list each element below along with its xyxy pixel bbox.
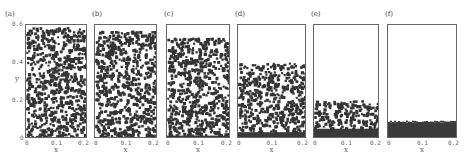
x-tick-label: 0.2	[221, 139, 232, 146]
x-tick-label: 0.2	[370, 139, 381, 146]
particle-scatter	[167, 25, 230, 138]
x-tick-label: 0	[313, 139, 317, 146]
panel-label: (a)	[5, 10, 15, 18]
panel-label: (f)	[385, 10, 393, 18]
y-tick-label: 0.2	[12, 96, 23, 103]
x-axis-label: x	[344, 146, 348, 154]
particle-scatter	[314, 25, 379, 138]
x-tick-label: 0	[387, 139, 391, 146]
particle-scatter	[388, 25, 457, 138]
x-axis-label: x	[270, 146, 274, 154]
x-tick-label: 0.2	[78, 139, 89, 146]
x-axis-label: x	[196, 146, 200, 154]
x-axis-label: x	[54, 146, 58, 154]
x-tick-label: 0.2	[148, 139, 159, 146]
x-tick-label: 0.1	[193, 139, 204, 146]
x-tick-label: 0	[25, 139, 29, 146]
panel-label: (c)	[164, 10, 173, 18]
x-axis-label: x	[124, 146, 128, 154]
particle-scatter	[26, 25, 87, 138]
x-tick-label: 0	[237, 139, 241, 146]
x-tick-label: 0.1	[341, 139, 352, 146]
panel-label: (d)	[235, 10, 245, 18]
particle-scatter	[238, 25, 306, 138]
x-tick-label: 0.2	[448, 139, 459, 146]
y-tick-label: 0	[20, 134, 24, 141]
plot-panel	[237, 24, 306, 138]
x-tick-label: 0.1	[267, 139, 278, 146]
y-tick-label: 0.6	[12, 20, 23, 27]
particle-scatter	[95, 25, 157, 138]
x-tick-label: 0	[94, 139, 98, 146]
plot-panel	[166, 24, 230, 138]
panel-label: (e)	[311, 10, 321, 18]
x-tick-label: 0.1	[417, 139, 428, 146]
y-axis-label: y	[15, 75, 19, 83]
plot-panel	[25, 24, 87, 138]
y-tick-label: 0.4	[12, 58, 23, 65]
x-tick-label: 0	[166, 139, 170, 146]
x-tick-label: 0.1	[121, 139, 132, 146]
plot-panel	[387, 24, 457, 138]
x-tick-label: 0.1	[51, 139, 62, 146]
plot-panel	[94, 24, 157, 138]
plot-panel	[313, 24, 379, 138]
x-tick-label: 0.2	[297, 139, 308, 146]
x-axis-label: x	[420, 146, 424, 154]
panel-label: (b)	[92, 10, 102, 18]
